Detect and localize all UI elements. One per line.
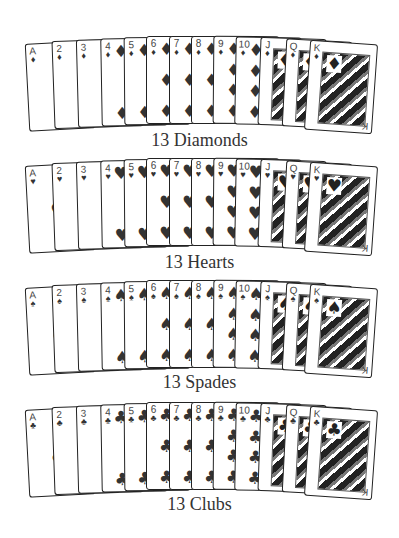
card-index: 9♣ [216, 405, 225, 423]
card-index: 10♦ [238, 39, 247, 57]
card-index: 6♦ [149, 39, 158, 57]
card-fan: A♦♦2♦3♦4♦♦♦5♦♦♦6♦♦♦♦7♦♦♦♦8♦♦♦♦9♦♦♦♦♦10♦♦… [0, 36, 399, 136]
card-index: 2♠ [55, 288, 65, 306]
card-fan: A♠♠2♠3♠4♠♠♠5♠♠♠6♠♠♠♠7♠♠♠♠8♠♠♠♠9♠♠♠♠♠10♠♠… [0, 280, 399, 380]
card-index: Q♣ [288, 407, 298, 425]
diamonds-suit-icon: ♦ [172, 48, 181, 57]
spades-suit-icon: ♠ [28, 299, 37, 308]
diamonds-suit-icon: ♦ [238, 48, 247, 57]
card-index: 5♠ [127, 284, 136, 302]
face-card-artwork-icon: ♦ [317, 52, 370, 127]
hearts-suit-icon: ♥ [103, 172, 112, 181]
hearts-suit-icon: ♥ [238, 170, 247, 179]
card-index: 4♦ [103, 41, 112, 59]
card-index: 2♦ [55, 44, 65, 62]
hearts-suit-icon: ♥ [79, 174, 88, 183]
card-index: 3♥ [79, 165, 88, 183]
card-index: Q♦ [288, 41, 298, 59]
card-index: K♠ [312, 287, 322, 306]
spades-suit-icon: ♠ [172, 292, 181, 301]
clubs-suit-icon: ♣ [79, 418, 88, 427]
card-k-of-clubs: K♣♣K [304, 406, 378, 501]
hearts-pip-icon: ♥ [326, 177, 342, 195]
spades-suit-icon: ♠ [194, 292, 203, 301]
clubs-suit-icon: ♣ [216, 414, 225, 423]
card-index: A♣ [28, 412, 38, 430]
card-index: 2♣ [55, 410, 65, 428]
card-index: J♣ [263, 406, 273, 424]
clubs-suit-icon: ♣ [28, 421, 37, 430]
card-index: 3♦ [79, 43, 88, 61]
suit-caption: 13 Diamonds [0, 130, 399, 151]
card-index: K♥ [312, 165, 322, 184]
face-card-artwork-icon: ♣ [317, 418, 370, 493]
card-index: 5♣ [127, 406, 136, 424]
clubs-suit-icon: ♣ [127, 415, 136, 424]
hearts-suit-icon: ♥ [149, 170, 158, 179]
diamonds-suit-icon: ♦ [194, 48, 203, 57]
card-index: 7♦ [172, 39, 181, 57]
spades-suit-icon: ♠ [127, 293, 136, 302]
card-index: 9♦ [216, 39, 225, 57]
card-index: 3♠ [79, 287, 88, 305]
diamonds-suit-icon: ♦ [216, 48, 225, 57]
clubs-suit-icon: ♣ [149, 414, 158, 423]
card-index: 9♠ [216, 283, 225, 301]
clubs-suit-icon: ♣ [263, 415, 272, 424]
card-index: Q♠ [288, 285, 298, 303]
suit-caption: 13 Hearts [0, 252, 399, 273]
card-index: 9♥ [216, 161, 225, 179]
spades-suit-icon: ♠ [263, 293, 272, 302]
card-index: J♥ [263, 162, 273, 180]
hearts-suit-icon: ♥ [263, 171, 272, 180]
card-index-inverted: K [360, 121, 370, 131]
card-index: 6♠ [149, 283, 158, 301]
hearts-suit-icon: ♥ [28, 177, 37, 186]
diamonds-suit-icon: ♦ [127, 49, 136, 58]
card-index-inverted: K [360, 243, 370, 253]
card-index: 8♥ [194, 161, 203, 179]
card-fan: A♥♥2♥3♥4♥♥♥5♥♥♥6♥♥♥♥7♥♥♥♥8♥♥♥♥9♥♥♥♥♥10♥♥… [0, 158, 399, 258]
spades-suit-icon: ♠ [55, 297, 64, 306]
spades-suit-icon: ♠ [79, 296, 88, 305]
face-card-artwork-icon: ♠ [317, 296, 370, 371]
card-index: 7♠ [172, 283, 181, 301]
card-index: 6♣ [149, 405, 158, 423]
clubs-pip-icon: ♣ [326, 421, 342, 439]
card-index: Q♥ [288, 163, 298, 181]
card-index: A♥ [28, 168, 38, 186]
diamonds-suit-icon: ♦ [28, 55, 37, 64]
hearts-suit-icon: ♥ [172, 170, 181, 179]
card-index: K♦ [312, 43, 322, 62]
card-index-inverted: K [360, 487, 370, 497]
card-index: 10♥ [238, 161, 247, 179]
clubs-suit-icon: ♣ [172, 414, 181, 423]
card-k-of-spades: K♠♠K [304, 284, 378, 379]
card-index: 10♠ [238, 283, 247, 301]
card-index: 4♠ [103, 285, 112, 303]
diamonds-suit-icon: ♦ [79, 52, 88, 61]
card-index: 7♣ [172, 405, 181, 423]
diamonds-suit-icon: ♦ [55, 53, 64, 62]
card-index: 7♥ [172, 161, 181, 179]
clubs-suit-icon: ♣ [55, 419, 64, 428]
spades-suit-icon: ♠ [103, 294, 112, 303]
card-k-of-hearts: K♥♥K [304, 162, 378, 257]
card-index: A♠ [28, 290, 38, 308]
card-index: A♦ [28, 46, 38, 64]
card-index: 5♦ [127, 40, 136, 58]
diamonds-suit-icon: ♦ [263, 49, 272, 58]
clubs-suit-icon: ♣ [238, 414, 247, 423]
card-k-of-diamonds: K♦♦K [304, 40, 378, 135]
card-index: K♣ [312, 409, 322, 428]
diamonds-suit-icon: ♦ [103, 50, 112, 59]
card-index: 4♥ [103, 163, 112, 181]
hearts-suit-icon: ♥ [127, 171, 136, 180]
card-index-inverted: K [360, 365, 370, 375]
clubs-suit-icon: ♣ [103, 416, 112, 425]
diamonds-pip-icon: ♦ [326, 55, 342, 73]
card-index: 4♣ [103, 407, 112, 425]
card-index: 5♥ [127, 162, 136, 180]
hearts-suit-icon: ♥ [216, 170, 225, 179]
hearts-suit-icon: ♥ [55, 175, 64, 184]
